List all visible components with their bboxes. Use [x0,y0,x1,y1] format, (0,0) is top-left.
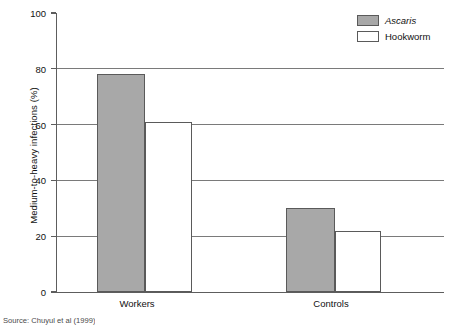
x-axis-line [56,292,444,293]
y-tick-label-0: 0 [8,287,46,298]
bar-hookworm-controls [335,231,381,292]
y-tick-label-20: 20 [8,231,46,242]
y-tick-label-100: 100 [8,8,46,19]
legend-swatch-ascaris [357,15,379,26]
y-tick-label-40: 40 [8,175,46,186]
legend-item-hookworm: Hookworm [357,30,430,43]
legend-swatch-hookworm [357,31,379,42]
y-tick-label-60: 60 [8,119,46,130]
x-axis-label-controls: Controls [313,298,348,309]
source-caption: Source: Chuyul et al (1999) [3,316,95,326]
x-axis-label-workers: Workers [119,298,154,309]
y-tick-label-80: 80 [8,63,46,74]
bar-ascaris-controls [286,208,335,292]
legend-item-ascaris: Ascaris [357,14,430,27]
bar-chart: Medium-to-heavy infections (%) 100806040… [0,0,449,326]
bar-ascaris-workers [97,74,145,292]
legend: Ascaris Hookworm [357,14,430,43]
bars-layer [56,13,444,292]
legend-label-ascaris: Ascaris [385,15,416,26]
legend-label-hookworm: Hookworm [385,31,430,42]
bar-hookworm-workers [145,122,192,292]
